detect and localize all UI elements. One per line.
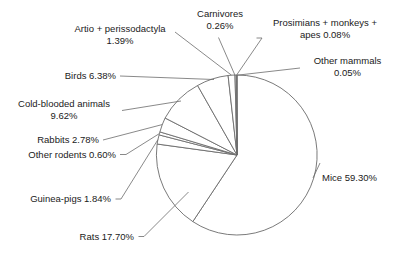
label-other-mammals: Other mammals 0.05% bbox=[300, 55, 395, 78]
leader-line-guinea-pigs bbox=[116, 140, 159, 200]
pie-chart-figure: Carnivores 0.26% Artio + perissodactyla … bbox=[0, 0, 397, 258]
label-other-rodents: Other rodents 0.60% bbox=[0, 149, 116, 161]
label-mice: Mice 59.30% bbox=[322, 172, 397, 184]
label-cold-blooded-name: Cold-blooded animals bbox=[8, 98, 120, 110]
leader-line-prosimians bbox=[237, 38, 263, 75]
label-rabbits: Rabbits 2.78% bbox=[0, 134, 99, 146]
label-artio-name: Artio + perissodactyla bbox=[55, 23, 185, 35]
label-cold-blooded-animals: Cold-blooded animals 9.62% bbox=[8, 98, 120, 121]
label-prosimians-value: apes 0.08% bbox=[255, 29, 395, 41]
leader-line-birds bbox=[120, 76, 214, 80]
label-artio-value: 1.39% bbox=[55, 35, 185, 47]
label-other-mammals-name: Other mammals bbox=[300, 55, 395, 67]
leader-line-other-mammals bbox=[237, 68, 300, 75]
label-artio-perissodactyla: Artio + perissodactyla 1.39% bbox=[55, 23, 185, 46]
label-other-mammals-value: 0.05% bbox=[300, 67, 395, 79]
leader-line-other-rodents bbox=[120, 134, 160, 155]
pie-slices bbox=[156, 75, 317, 235]
label-birds: Birds 6.38% bbox=[20, 70, 116, 82]
leader-line-carnivores bbox=[219, 38, 236, 76]
label-cold-blooded-value: 9.62% bbox=[8, 110, 120, 122]
label-guinea-pigs: Guinea-pigs 1.84% bbox=[0, 193, 111, 205]
label-prosimians-name: Prosimians + monkeys + bbox=[255, 17, 395, 29]
label-prosimians-monkeys-apes: Prosimians + monkeys + apes 0.08% bbox=[255, 17, 395, 40]
label-rats: Rats 17.70% bbox=[30, 231, 134, 243]
